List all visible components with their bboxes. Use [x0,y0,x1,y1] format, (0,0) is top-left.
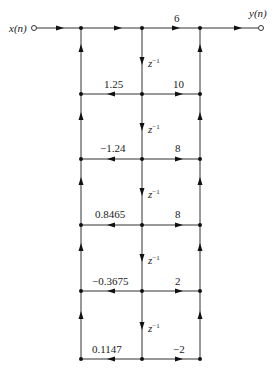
feedforward-labels: 10 8 8 2 −2 [173,78,185,355]
arrow-icon [172,26,180,31]
svg-text:2: 2 [175,275,181,287]
svg-text:−1.24: −1.24 [100,142,126,154]
svg-text:8: 8 [175,208,181,220]
svg-text:10: 10 [173,78,185,90]
arrow-icon [114,26,122,31]
delay-labels: z−1 z−1 z−1 z−1 z−1 [147,57,160,334]
arrow-icon [56,26,64,31]
svg-text:z−1: z−1 [147,57,160,69]
feedback-labels: 1.25 −1.24 0.8465 −0.3675 0.1147 [92,78,129,355]
arrow-icon [234,26,242,31]
output-terminal [259,26,264,31]
svg-text:8: 8 [175,142,181,154]
svg-text:z−1: z−1 [147,123,160,135]
input-terminal [32,26,37,31]
feedback-arrows [107,92,115,362]
top-gain-label: 6 [174,12,180,24]
svg-text:−2: −2 [173,343,185,355]
signal-flow-diagram: x(n) y(n) 6 z−1 z−1 z−1 z−1 z−1 1.25 −1.… [0,0,275,375]
svg-text:z−1: z−1 [147,322,160,334]
output-label: y(n) [248,7,267,20]
nodes [79,26,202,361]
horizontal-rows [81,94,200,359]
top-path [32,26,264,31]
svg-text:−0.3675: −0.3675 [92,275,129,287]
input-label: x(n) [8,22,27,35]
svg-text:z−1: z−1 [147,188,160,200]
svg-text:z−1: z−1 [147,254,160,266]
svg-text:1.25: 1.25 [104,78,124,90]
feedforward-arrows [175,92,183,362]
svg-text:0.8465: 0.8465 [95,208,126,220]
svg-text:0.1147: 0.1147 [92,343,122,355]
